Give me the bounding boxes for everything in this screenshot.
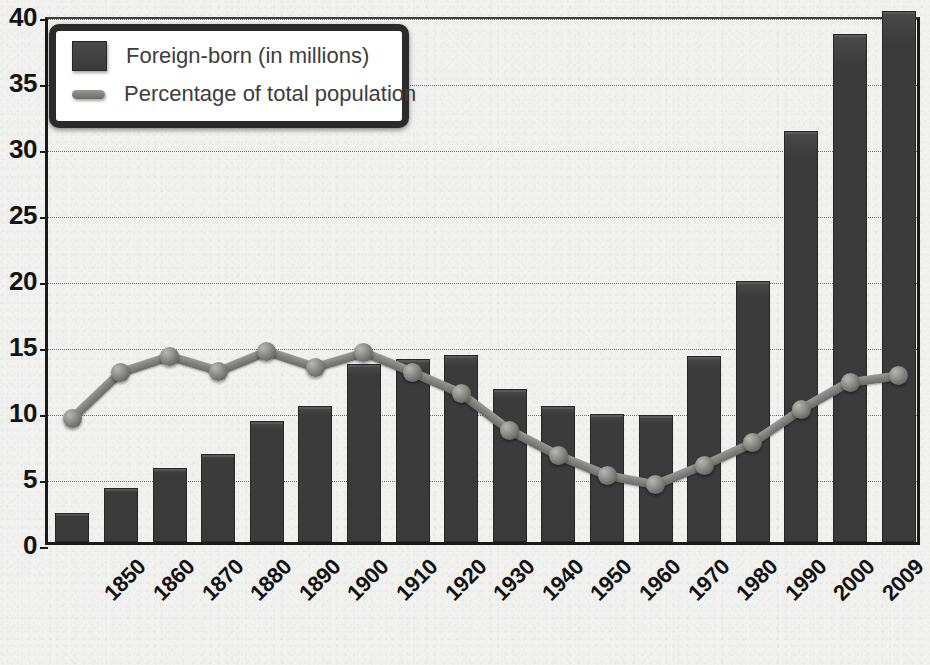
bar-1890 (250, 421, 284, 542)
legend-label-foreign-born: Foreign-born (in millions) (126, 43, 369, 69)
x-axis-label-1900: 1900 (342, 554, 394, 606)
x-axis-label-text: 1850 (99, 554, 150, 605)
x-axis-label-1870: 1870 (197, 554, 249, 606)
y-tick-mark-40 (40, 19, 48, 21)
x-axis-label-1910: 1910 (391, 554, 443, 606)
y-axis-label-30: 30 (9, 134, 37, 165)
bar-1860 (104, 488, 138, 542)
legend-item-foreign-born: Foreign-born (in millions) (72, 39, 369, 73)
x-axis-label-text: 1960 (634, 554, 685, 605)
x-axis-label-text: 1900 (342, 554, 393, 605)
line-marker-1870 (160, 347, 179, 366)
x-axis-label-1860: 1860 (148, 554, 200, 606)
bar-1960 (590, 414, 624, 542)
line-segment-1880-to-1890 (216, 347, 268, 375)
x-axis-label-1930: 1930 (488, 554, 540, 606)
y-axis-label-0: 0 (23, 530, 37, 561)
bar-1880 (201, 454, 235, 542)
x-axis-label-1880: 1880 (245, 554, 297, 606)
bar-1970 (639, 415, 673, 542)
y-axis-label-20: 20 (9, 266, 37, 297)
bar-2000 (784, 131, 818, 542)
line-marker-1910 (354, 343, 373, 362)
line-swatch-icon (72, 90, 105, 99)
y-axis-label-10: 10 (9, 398, 37, 429)
x-axis-label-text: 1890 (294, 554, 345, 605)
bar-1980 (687, 356, 721, 542)
x-axis-label-text: 2009 (877, 554, 928, 605)
x-axis-label-text: 1950 (585, 554, 636, 605)
line-segment-1870-to-1880 (168, 353, 219, 376)
y-tick-mark-0 (40, 547, 48, 549)
x-axis-label-text: 1870 (197, 554, 248, 605)
bar-1950 (541, 406, 575, 542)
x-axis-label-text: 1910 (391, 554, 442, 605)
line-marker-1900 (306, 358, 325, 377)
bar-1930 (444, 355, 478, 542)
y-tick-mark-10 (40, 415, 48, 417)
x-axis-label-1990: 1990 (780, 554, 832, 606)
x-axis-label-1940: 1940 (537, 554, 589, 606)
line-marker-1880 (209, 362, 228, 381)
legend-item-percentage: Percentage of total population (72, 77, 416, 111)
y-axis-label-15: 15 (9, 332, 37, 363)
y-axis-label-25: 25 (9, 200, 37, 231)
bar-swatch-icon (72, 41, 107, 71)
y-tick-mark-15 (40, 349, 48, 351)
bar-1940 (493, 389, 527, 542)
y-tick-mark-30 (40, 151, 48, 153)
line-segment-1860-to-1870 (120, 353, 171, 377)
y-axis-label-35: 35 (9, 68, 37, 99)
x-axis-label-1950: 1950 (585, 554, 637, 606)
x-axis-label-text: 1980 (731, 554, 782, 605)
x-axis-label-text: 1930 (488, 554, 539, 605)
x-axis-label-text: 1920 (440, 554, 491, 605)
gridline-40 (48, 19, 917, 20)
x-axis-label-1980: 1980 (731, 554, 783, 606)
x-axis-label-1920: 1920 (440, 554, 492, 606)
x-axis-label-1960: 1960 (634, 554, 686, 606)
x-axis-label-text: 1970 (683, 554, 734, 605)
x-axis-label-text: 1940 (537, 554, 588, 605)
line-segment-1890-to-1900 (265, 347, 316, 371)
y-tick-mark-35 (40, 85, 48, 87)
x-axis-label-text: 1880 (245, 554, 296, 605)
x-axis-label-text: 2000 (828, 554, 879, 605)
line-marker-1890 (257, 342, 276, 361)
bar-1870 (153, 468, 187, 542)
x-axis-label-1850: 1850 (99, 554, 151, 606)
chart-page: 0510152025303540 18501860187018801890190… (0, 0, 930, 665)
bar-2020 (882, 11, 916, 542)
x-axis-label-1970: 1970 (683, 554, 735, 606)
bar-1900 (298, 406, 332, 542)
x-axis-label-2000: 2000 (828, 554, 880, 606)
bar-1910 (347, 364, 381, 542)
line-marker-1850 (63, 409, 82, 428)
x-axis-label-text: 1860 (148, 554, 199, 605)
bar-1990 (736, 281, 770, 542)
y-axis-label-40: 40 (9, 2, 37, 33)
line-marker-1860 (111, 363, 130, 382)
bar-1850 (55, 513, 89, 542)
y-tick-mark-5 (40, 481, 48, 483)
bar-1920 (396, 359, 430, 542)
x-axis-label-1890: 1890 (294, 554, 346, 606)
bar-2009 (833, 34, 867, 542)
x-axis-label-2009: 2009 (877, 554, 929, 606)
x-axis-label-text: 1990 (780, 554, 831, 605)
y-tick-mark-20 (40, 283, 48, 285)
y-axis-label-5: 5 (23, 464, 37, 495)
y-axis: 0510152025303540 (0, 0, 45, 665)
y-tick-mark-25 (40, 217, 48, 219)
legend-label-percentage: Percentage of total population (124, 81, 416, 107)
chart-legend: Foreign-born (in millions) Percentage of… (49, 24, 409, 128)
